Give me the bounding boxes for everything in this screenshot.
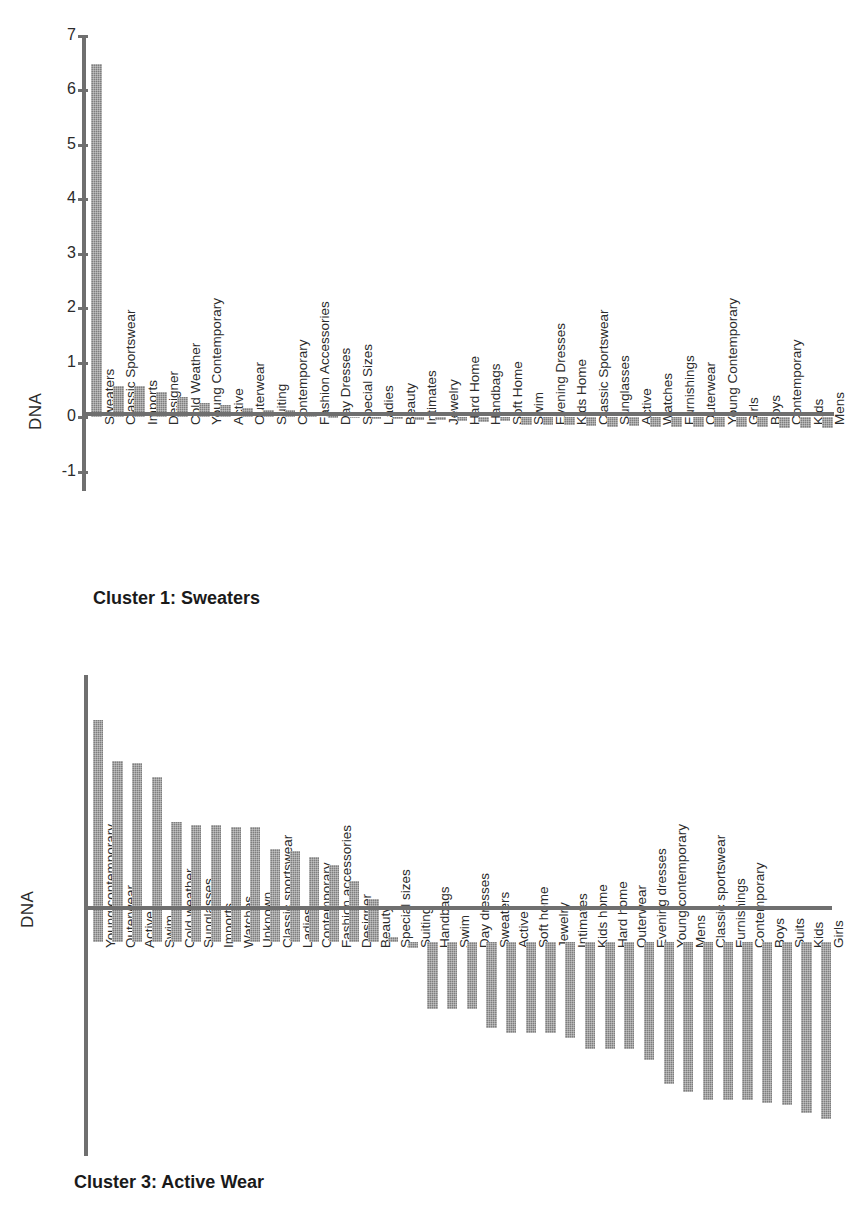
x-tick-label: Suiting [274, 384, 289, 425]
y-tick-label: -1 [32, 462, 76, 480]
x-axis-line [84, 906, 832, 910]
bar [132, 763, 142, 942]
y-tick-label: 4 [32, 189, 76, 207]
bar [821, 942, 831, 1118]
bar [526, 942, 536, 1033]
bar [349, 881, 359, 942]
bar [414, 417, 425, 419]
bar [565, 942, 575, 1038]
bar [467, 942, 477, 1009]
bar [703, 942, 713, 1100]
bar [270, 849, 280, 943]
chart-caption-1: Cluster 1: Sweaters [93, 588, 260, 609]
bar [762, 942, 772, 1102]
x-tick-label: Handbags [488, 364, 503, 426]
bar [152, 777, 162, 943]
bar [91, 64, 102, 417]
x-tick-label: Kids home [595, 884, 610, 948]
y-axis-label: DNA [18, 891, 38, 928]
bar [171, 822, 181, 942]
bar [683, 942, 693, 1092]
x-tick-label: Sweaters [497, 892, 512, 948]
bar [191, 825, 201, 943]
x-tick-label: Day dresses [477, 873, 492, 948]
bar [250, 827, 260, 942]
y-tick-label: 5 [32, 135, 76, 153]
x-tick-label: Furnishings [733, 878, 748, 948]
bar [742, 942, 752, 1100]
bar [329, 865, 339, 942]
bar [447, 942, 457, 1009]
bar [328, 416, 339, 418]
x-tick-label: Outerwear [634, 885, 649, 948]
bar [757, 417, 768, 427]
bar [371, 417, 382, 419]
y-tick-label: 6 [32, 80, 76, 98]
x-tick-label: Evening dresses [654, 848, 669, 948]
bar [664, 942, 674, 1084]
x-tick-label: Mens [832, 392, 847, 425]
bar [231, 827, 241, 942]
bar [427, 942, 437, 1009]
bar [211, 825, 221, 943]
y-tick-label: 7 [32, 26, 76, 44]
chart-cluster-1: DNA 76543210-1 SweatersClassic Sportswea… [0, 0, 852, 620]
bar [435, 417, 446, 420]
x-tick-label: Active [231, 389, 246, 426]
bar [506, 942, 516, 1033]
chart-cluster-3: DNA 10.80.60.40.20-0.2-0.4-0.6-0.8 Young… [0, 660, 852, 1200]
bar [822, 417, 833, 428]
bar [309, 857, 319, 943]
bar [457, 417, 468, 421]
y-tick-label: 1 [32, 353, 76, 371]
x-tick-label: Girls [831, 920, 846, 948]
bar [624, 942, 634, 1049]
x-tick-label: Handbags [437, 887, 452, 949]
x-tick-label: Evening Dresses [553, 323, 568, 425]
bar [782, 942, 792, 1105]
bar [800, 417, 811, 427]
bar [349, 417, 360, 419]
bar [486, 942, 496, 1028]
bar [585, 942, 595, 1049]
x-tick-label: Young contemporary [674, 824, 689, 948]
bar [801, 942, 811, 1113]
y-tick-label: 3 [32, 244, 76, 262]
bar [605, 942, 615, 1049]
bar [723, 942, 733, 1100]
x-tick-label: Classic sportswear [713, 835, 728, 948]
plot-area-cluster-3: Young contemporaryOuterwearActiveSwimCol… [88, 675, 836, 1156]
bar [545, 942, 555, 1033]
x-tick-label: Hard home [615, 881, 630, 948]
bar [714, 417, 725, 427]
bar [644, 942, 654, 1060]
bar [543, 417, 554, 424]
chart-caption-3: Cluster 3: Active Wear [74, 1172, 264, 1193]
plot-area-cluster-1: SweatersClassic SportswearImportsDesigne… [86, 36, 838, 491]
x-tick-label: Ladies [381, 386, 396, 426]
x-tick-label: Young Contemporary [725, 298, 740, 425]
bar [408, 942, 418, 947]
x-tick-label: Classic Sportswear [596, 310, 611, 426]
bar [392, 417, 403, 419]
bar [112, 761, 122, 943]
bar [500, 417, 511, 421]
bar [629, 417, 640, 425]
bar [586, 417, 597, 426]
y-tick-label: 0 [32, 407, 76, 425]
bar [671, 417, 682, 426]
bar [388, 937, 398, 942]
y-tick-label: 2 [32, 298, 76, 316]
x-tick-label: Soft home [536, 887, 551, 949]
x-tick-label: Fashion Accessories [317, 302, 332, 426]
x-tick-label: Intimates [575, 893, 590, 948]
x-axis-line [82, 412, 834, 416]
bar [290, 851, 300, 942]
